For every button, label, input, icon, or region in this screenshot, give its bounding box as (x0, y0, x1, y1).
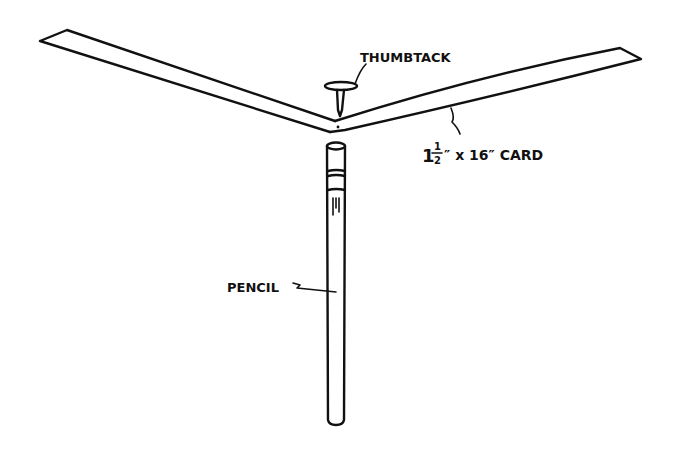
pencil-shading (333, 198, 339, 215)
thumbtack (325, 82, 357, 116)
pencil-label: PENCIL (227, 280, 279, 295)
card-size-denominator: 2 (434, 155, 441, 166)
tack-hole (337, 126, 340, 129)
pencil-band-upper (328, 170, 345, 176)
card-size-label: 1 1 2 ″ x 16″ CARD (422, 141, 543, 166)
card-size-numerator: 1 (434, 141, 441, 152)
pencil-leader-line (293, 283, 336, 292)
thumbtack-label: THUMBTACK (360, 50, 452, 65)
card-leader-line (451, 108, 460, 134)
thumbtack-head (325, 82, 357, 90)
thumbtack-leader-line (355, 64, 366, 84)
thumbtack-pin (337, 90, 344, 116)
diagram-canvas: THUMBTACK 1 1 2 ″ x 16″ CARD PENCIL (0, 0, 680, 452)
card-left-arm (40, 30, 335, 132)
pencil-band-lower (328, 189, 345, 190)
pencil (327, 143, 345, 426)
pencil-top (327, 143, 345, 150)
card-size-whole: 1 (422, 145, 435, 166)
card-size-rest: ″ x 16″ CARD (444, 147, 543, 163)
